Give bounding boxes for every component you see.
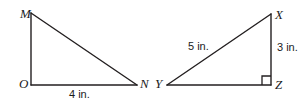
measure-label-on: 4 in. xyxy=(69,89,90,100)
right-angle-marker-z xyxy=(262,76,271,85)
segment-mn xyxy=(31,13,137,85)
vertex-label-o: O xyxy=(19,77,28,90)
vertex-label-n: N xyxy=(140,77,149,90)
measure-label-xy: 5 in. xyxy=(188,41,209,52)
triangle-mon xyxy=(31,13,137,85)
triangles-drawing xyxy=(0,0,307,105)
segment-xy xyxy=(167,14,271,85)
triangle-xyz xyxy=(167,14,271,85)
geometry-figure: M O N X Y Z 4 in. 5 in. 3 in. xyxy=(0,0,307,105)
measure-label-xz: 3 in. xyxy=(277,42,298,53)
vertex-label-m: M xyxy=(20,7,31,20)
vertex-label-z: Z xyxy=(275,78,282,91)
vertex-label-y: Y xyxy=(155,77,162,90)
vertex-label-x: X xyxy=(275,8,283,21)
